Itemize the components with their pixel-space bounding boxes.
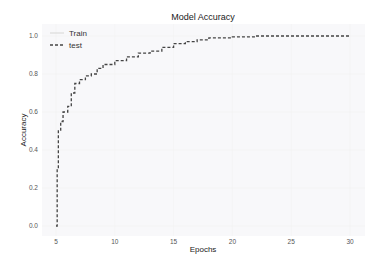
legend-label: test [69,41,83,50]
y-tick-label: 0.2 [29,184,38,191]
x-tick-label: 30 [346,238,354,245]
x-tick-label: 25 [288,238,296,245]
x-tick-label: 10 [111,238,119,245]
x-tick-label: 15 [170,238,178,245]
y-axis-label: Accuracy [19,114,28,147]
y-tick-label: 0.6 [29,108,38,115]
accuracy-chart: Model Accuracy 0.00.20.40.60.81.0 510152… [0,0,379,273]
chart-title: Model Accuracy [171,12,235,22]
x-tick-label: 20 [229,238,237,245]
plot-background [42,24,365,236]
y-tick-label: 0.8 [29,70,38,77]
x-axis-label: Epochs [190,245,217,254]
y-tick-label: 0.4 [29,146,38,153]
y-tick-label: 1.0 [29,32,38,39]
x-axis-ticks: 51015202530 [54,238,354,245]
y-axis-ticks: 0.00.20.40.60.81.0 [29,32,38,229]
legend-label: Train [69,29,87,38]
y-tick-label: 0.0 [29,222,38,229]
x-tick-label: 5 [54,238,58,245]
